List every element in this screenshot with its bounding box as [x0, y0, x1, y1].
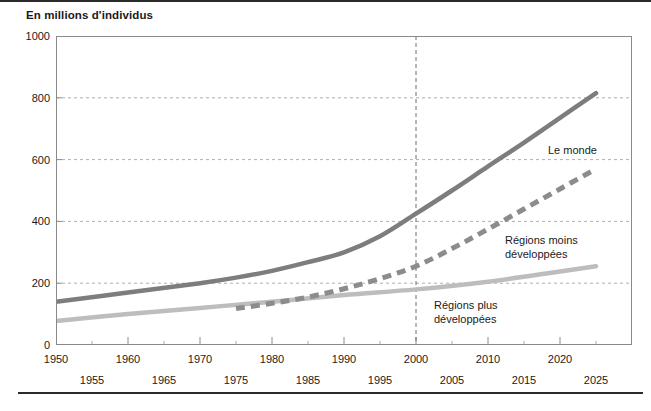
y-tick-label-800: 800	[8, 92, 50, 104]
y-axis-tick-labels: 02004006008001000	[4, 36, 50, 345]
series-label-r-gions-plus-d-velopp-es: Régions plus développées	[434, 298, 498, 326]
top-rule	[0, 0, 651, 2]
y-tick-label-200: 200	[8, 277, 50, 289]
x-tick-label-2005: 2005	[440, 374, 464, 386]
chart-title: En millions d'individus	[26, 9, 153, 21]
y-tick-label-1000: 1000	[8, 30, 50, 42]
x-tick-label-2015: 2015	[512, 374, 536, 386]
x-tick-label-1955: 1955	[80, 374, 104, 386]
x-tick-label-1950: 1950	[44, 353, 68, 365]
x-tick-label-2020: 2020	[548, 353, 572, 365]
x-tick-label-2025: 2025	[584, 374, 608, 386]
x-tick-label-1980: 1980	[260, 353, 284, 365]
bottom-rule	[18, 392, 643, 394]
chart-figure: En millions d'individus 0200400600800100…	[0, 0, 651, 411]
x-tick-label-1960: 1960	[116, 353, 140, 365]
x-tick-label-2000: 2000	[404, 353, 428, 365]
x-tick-label-1995: 1995	[368, 374, 392, 386]
y-tick-label-400: 400	[8, 215, 50, 227]
x-tick-label-1970: 1970	[188, 353, 212, 365]
x-tick-label-1965: 1965	[152, 374, 176, 386]
series-label-le-monde: Le monde	[548, 143, 597, 157]
y-tick-label-600: 600	[8, 154, 50, 166]
x-tick-label-1975: 1975	[224, 374, 248, 386]
x-tick-label-1985: 1985	[296, 374, 320, 386]
x-axis-tick-labels: 1950196019701980199020002010202019551965…	[0, 346, 651, 396]
plot-area	[56, 36, 632, 345]
series-label-r-gions-moins-d-velopp-es: Régions moins développées	[505, 233, 578, 261]
x-tick-label-1990: 1990	[332, 353, 356, 365]
x-tick-label-2010: 2010	[476, 353, 500, 365]
plot-frame	[56, 36, 632, 345]
